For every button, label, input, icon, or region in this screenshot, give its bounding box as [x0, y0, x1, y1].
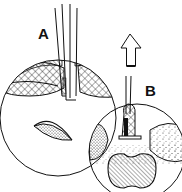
panel-label-a: A: [38, 26, 49, 41]
hatched-bilobed-structure: [108, 154, 156, 188]
instrument-b: [119, 76, 141, 139]
upward-arrow-icon: [121, 34, 141, 66]
panel-label-b: B: [145, 83, 156, 98]
tissue-crosshatch-left: [0, 62, 64, 96]
instrument-b-tip: [122, 104, 135, 138]
panel-b: [88, 34, 182, 192]
